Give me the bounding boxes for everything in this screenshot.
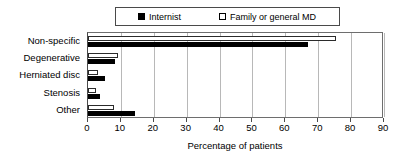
bar-family-or-general-md [88,105,114,110]
bar-rows [88,33,382,117]
chart-legend: Internist Family or general MD [115,7,340,26]
legend-label-family-or-general-md: Family or general MD [230,12,316,22]
bar-gap [88,93,382,94]
bar-internist [88,94,100,99]
legend-entry-internist: Internist [138,12,181,22]
bar-gap [88,75,382,76]
x-tick-label: 0 [84,122,89,133]
bar-internist [88,111,135,116]
x-tick-label: 80 [345,122,356,133]
plot-area [87,32,383,118]
category-label: Other [56,101,80,118]
gridline [384,33,385,117]
x-tick-label: 10 [115,122,126,133]
legend-label-internist: Internist [149,12,181,22]
category-label: Stenosis [44,84,80,101]
x-tick-label: 20 [147,122,158,133]
bar-group [88,33,382,50]
category-label: Herniated disc [19,66,80,83]
bar-group [88,50,382,67]
x-tick-label: 30 [180,122,191,133]
bar-internist [88,76,105,81]
bar-family-or-general-md [88,70,98,75]
x-axis-tick-labels: 0102030405060708090 [0,122,396,136]
bar-internist [88,42,308,47]
filled-square-icon [138,13,145,20]
x-tick-label: 50 [246,122,257,133]
legend-entry-family-or-general-md: Family or general MD [219,12,316,22]
x-tick-label: 60 [279,122,290,133]
bar-chart: Internist Family or general MD Non-speci… [0,0,396,162]
bar-group [88,102,382,119]
bar-family-or-general-md [88,88,96,93]
bar-family-or-general-md [88,36,336,41]
bar-group [88,85,382,102]
category-label: Degenerative [23,49,80,66]
x-tick-label: 40 [213,122,224,133]
x-tick-label: 70 [312,122,323,133]
x-tick-label: 90 [378,122,389,133]
bar-family-or-general-md [88,53,118,58]
bar-internist [88,59,115,64]
x-axis-title: Percentage of patients [87,140,383,151]
category-axis-labels: Non-specificDegenerativeHerniated discSt… [0,32,84,118]
bar-gap [88,58,382,59]
open-square-icon [219,13,226,20]
category-label: Non-specific [28,32,80,49]
bar-group [88,67,382,84]
